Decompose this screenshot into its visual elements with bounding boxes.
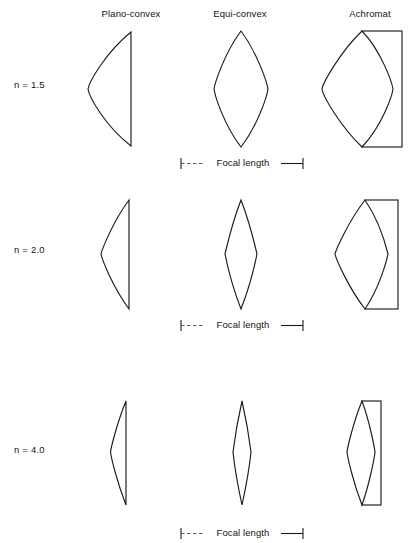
lens-refractive-index-figure: Plano-convex Equi-convex Achromat n = 1.… bbox=[0, 0, 418, 543]
lens-equi-convex-n-1-5 bbox=[210, 28, 272, 150]
column-header-achromat: Achromat bbox=[320, 8, 418, 19]
lens-achromat-n-1-5 bbox=[318, 28, 406, 150]
column-header-equi-convex: Equi-convex bbox=[190, 8, 290, 19]
focal-length-label-n-4-0: Focal length bbox=[205, 527, 281, 538]
focal-length-label-n-2-0: Focal length bbox=[205, 319, 281, 330]
focal-length-label-n-1-5: Focal length bbox=[205, 157, 281, 168]
row-label-n-2-0: n = 2.0 bbox=[14, 244, 45, 255]
column-header-plano-convex: Plano-convex bbox=[81, 8, 181, 19]
lens-equi-convex-n-2-0 bbox=[222, 197, 260, 312]
lens-plano-convex-n-4-0 bbox=[108, 398, 136, 508]
lens-achromat-n-4-0 bbox=[345, 398, 385, 508]
row-label-n-4-0: n = 4.0 bbox=[14, 444, 45, 455]
row-label-n-1-5: n = 1.5 bbox=[14, 79, 45, 90]
lens-equi-convex-n-4-0 bbox=[231, 398, 253, 508]
lens-plano-convex-n-1-5 bbox=[84, 28, 144, 150]
lens-achromat-n-2-0 bbox=[332, 197, 402, 312]
lens-plano-convex-n-2-0 bbox=[98, 197, 142, 312]
